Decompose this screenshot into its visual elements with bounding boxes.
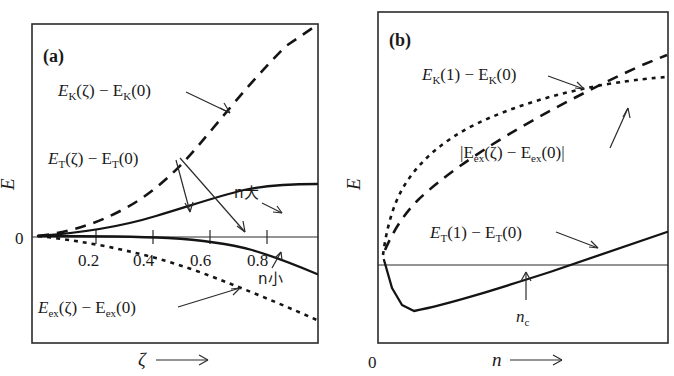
label-n-small: n小	[258, 270, 283, 288]
panel-a-x-axis-label: ζ	[138, 349, 147, 370]
figure-container: (a) E 0 0.2 0.4 0.6 0.8 EK(ζ) − EK(0) ET…	[0, 0, 674, 376]
leader-exchange-a	[178, 288, 240, 307]
label-exchange-energy-b: |Eex(ζ) − Eex(0)|	[460, 143, 565, 164]
label-exchange-energy-a: Eex(ζ) − Eex(0)	[37, 298, 136, 319]
label-n-large: n大	[234, 184, 259, 202]
panel-a: (a) E 0 0.2 0.4 0.6 0.8 EK(ζ) − EK(0) ET…	[0, 0, 340, 376]
label-critical-density: nc	[516, 307, 530, 328]
leader-kinetic-b	[548, 76, 584, 89]
label-kinetic-energy-a: EK(ζ) − EK(0)	[57, 81, 151, 102]
panel-b-tag: (b)	[389, 30, 411, 51]
leader-exchange-a-head	[231, 288, 240, 295]
panel-b-x-axis-label: n	[492, 349, 502, 370]
panel-a-frame	[32, 24, 318, 343]
curve-kinetic-energy-a	[38, 25, 317, 236]
panel-a-tick-label-0.4: 0.4	[133, 251, 155, 270]
label-total-energy-b: ET(1) − ET(0)	[429, 223, 522, 244]
leader-kinetic-b-head	[575, 82, 584, 89]
leader-total-a-2-head	[237, 221, 245, 232]
panel-a-y-axis-label: E	[0, 178, 18, 191]
panel-b-frame	[378, 12, 668, 343]
curve-exchange-energy-b	[383, 77, 667, 255]
leader-total-b	[556, 232, 598, 248]
panel-b-y-axis-label: E	[343, 178, 364, 191]
panel-a-tick-label-0.8: 0.8	[247, 251, 268, 270]
panel-a-tick-label-0.6: 0.6	[190, 251, 211, 270]
panel-a-tick-label-0.2: 0.2	[78, 251, 99, 270]
panel-b-zero-label: 0	[368, 353, 377, 372]
label-kinetic-energy-b: EK(1) − EK(0)	[421, 65, 516, 86]
panel-b: (b) E EK(1) − EK(0) |Eex(ζ) − Eex(0)| ET…	[340, 0, 674, 376]
panel-a-zero-label: 0	[15, 229, 24, 248]
label-total-energy-a: ET(ζ) − ET(0)	[47, 149, 139, 170]
panel-a-tag: (a)	[43, 46, 64, 67]
